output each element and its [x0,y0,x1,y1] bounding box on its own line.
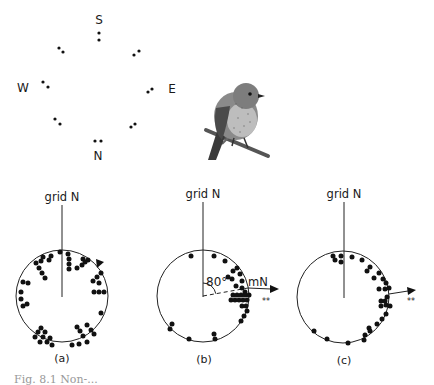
data-point [360,258,365,263]
data-point [137,49,140,52]
data-point [19,290,24,295]
data-point [384,281,389,286]
data-point [368,329,373,334]
data-point [85,340,90,345]
data-point [372,276,377,281]
data-point [99,139,102,142]
data-point [339,254,344,259]
mean-direction-arrow-icon [407,287,416,295]
data-point [133,122,136,125]
data-point [39,326,44,331]
data-point [230,277,235,282]
data-point [61,50,64,53]
data-point [377,271,382,276]
data-point [40,271,45,276]
data-point [58,122,61,125]
data-point [170,322,175,327]
panel-label: (c) [337,354,352,367]
data-point [339,260,344,265]
data-point [85,323,90,328]
compass-label-east: E [168,82,176,96]
data-point [48,336,53,341]
mean-direction-arrow-icon [270,285,279,293]
data-point [77,342,82,347]
data-point [150,87,153,90]
compass-diagram: S W E N [17,13,176,163]
data-point [67,267,72,272]
compass-label-west: W [17,81,29,95]
data-point [212,254,217,259]
orientation-dots [312,254,393,346]
bird-beak-icon [258,94,265,98]
data-point [83,260,88,265]
data-point [26,281,31,286]
data-point [99,311,104,316]
data-point [97,31,100,34]
data-point [377,287,382,292]
data-point [189,254,194,259]
data-point [333,258,338,263]
panel-label: (a) [54,352,69,365]
data-point [58,250,63,255]
data-point [75,266,80,271]
data-point [240,279,245,284]
data-point [312,329,317,334]
data-point [388,304,393,309]
data-point [381,277,386,282]
data-point [95,275,100,280]
data-point [19,297,24,302]
figure-caption: Fig. 8.1 Non-... [14,373,98,385]
data-point [53,117,56,120]
data-point [384,312,389,317]
data-point [168,327,173,332]
data-point [91,279,96,284]
panel-b: grid N 80° mN ** (b) [157,187,279,366]
data-point [380,317,385,322]
data-point [146,90,149,93]
data-point [57,46,60,49]
data-point [33,335,38,340]
grid-north-label: grid N [327,187,362,201]
data-point [67,262,72,267]
data-point [92,290,97,295]
compass-dot-pairs [41,31,153,142]
data-point [346,341,351,346]
data-point [36,330,41,335]
data-point [379,304,384,309]
data-point [97,38,100,41]
data-point [92,332,97,337]
data-point [235,266,240,271]
data-point [365,269,370,274]
data-point [47,258,52,263]
data-point [41,255,46,260]
data-point [363,333,368,338]
data-point [75,325,80,330]
data-point [81,334,86,339]
panel-label: (b) [196,353,212,366]
data-point [21,280,26,285]
data-point [350,255,355,260]
data-point [102,290,107,295]
angle-label: 80° [206,275,227,289]
data-point [97,290,102,295]
data-point [244,304,249,309]
significance-label: ** [407,297,415,306]
significance-label: ** [262,297,270,306]
data-point [41,335,46,340]
data-point [368,265,373,270]
data-point [99,271,104,276]
data-point [37,266,42,271]
data-point [70,343,75,348]
data-point [66,252,71,257]
orientation-figure: S W E N grid N (a) [0,0,434,385]
data-point [245,298,250,303]
data-point [362,338,367,343]
data-point [245,309,250,314]
data-point [325,337,330,342]
data-point [50,343,55,348]
compass-label-north: N [94,149,103,163]
data-point [234,284,239,289]
data-point [231,269,236,274]
panel-c: grid N ** (c) [297,187,416,367]
data-point [132,53,135,56]
